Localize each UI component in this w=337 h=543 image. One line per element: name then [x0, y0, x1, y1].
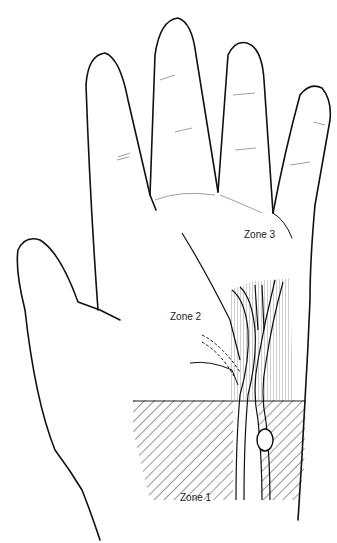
zone1-hatched-region — [133, 400, 306, 500]
pisiform-oval — [257, 429, 273, 451]
zone-1-label: Zone 1 — [180, 492, 211, 503]
zone-3-label: Zone 3 — [244, 229, 275, 240]
hand-illustration — [0, 0, 337, 543]
zone-2-label: Zone 2 — [170, 311, 201, 322]
